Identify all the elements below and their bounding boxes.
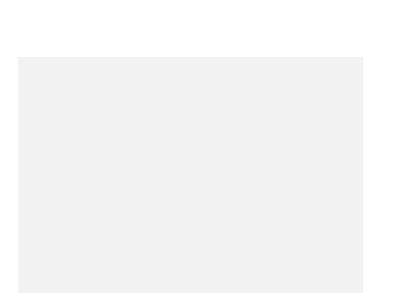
exponential-function-figure: x y (0, 1) y = a x: [0, 0, 401, 293]
plot-panel-background: x y (0, 1) y = a x: [18, 57, 363, 293]
figure-canvas: x y (0, 1) y = a x: [0, 0, 401, 293]
